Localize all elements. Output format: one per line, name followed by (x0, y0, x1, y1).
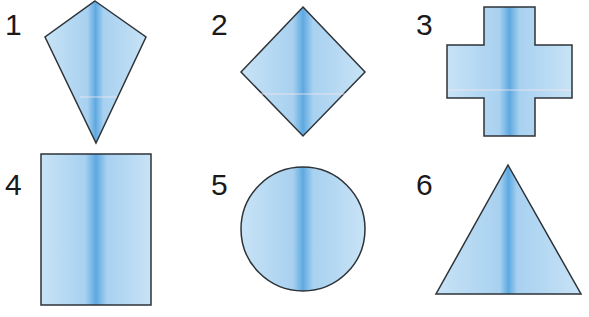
shape-label-3: 3 (416, 10, 433, 40)
shape-label-2: 2 (211, 10, 228, 40)
shape-label-4: 4 (5, 170, 22, 200)
circle-shape (241, 167, 365, 291)
rectangle-shape (41, 154, 151, 305)
kite-shape (45, 1, 146, 143)
shapes-diagram (0, 0, 589, 317)
shape-label-6: 6 (416, 170, 433, 200)
rotated-square-shape (241, 7, 365, 136)
cross-shape (447, 7, 572, 136)
shape-label-1: 1 (5, 10, 22, 40)
shape-label-5: 5 (211, 170, 228, 200)
triangle-shape (436, 165, 581, 294)
